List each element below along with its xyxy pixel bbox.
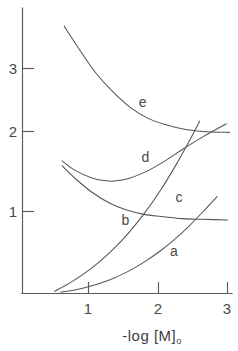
y-tick-label-1: 1 <box>9 203 17 220</box>
x-tick-label-3: 3 <box>223 300 231 317</box>
curve-b <box>54 121 199 291</box>
curve-label-a: a <box>170 243 178 259</box>
curve-e <box>64 26 229 132</box>
curve-label-b: b <box>122 212 130 228</box>
x-axis-title-subscript: o <box>176 336 182 346</box>
y-tick-label-3: 3 <box>9 60 17 77</box>
chart-figure: 3 2 1 1 2 3 a b c d e -log [M]o <box>0 0 238 351</box>
curve-label-c: c <box>175 189 182 205</box>
y-tick-label-2: 2 <box>9 123 17 140</box>
line-chart: 3 2 1 1 2 3 a b c d e -log [M]o <box>0 0 238 351</box>
x-axis-title-main: -log [M] <box>122 327 176 344</box>
curve-label-d: d <box>142 149 150 165</box>
x-tick-label-1: 1 <box>84 300 92 317</box>
x-axis-title: -log [M]o <box>122 327 182 346</box>
curve-label-e: e <box>139 94 147 110</box>
curve-a <box>61 197 217 293</box>
x-tick-label-2: 2 <box>154 300 162 317</box>
